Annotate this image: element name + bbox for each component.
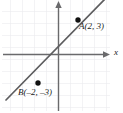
point-b-marker — [35, 80, 40, 85]
point-a-label: A(2, 3) — [79, 22, 104, 31]
x-axis-label: x — [114, 48, 118, 57]
point-b-label: B(–2, –3) — [18, 88, 52, 97]
coordinate-plane-figure: A(2, 3) B(–2, –3) x — [0, 0, 123, 113]
